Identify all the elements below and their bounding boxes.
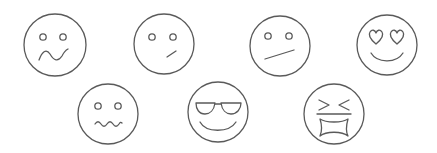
sunglasses-face-icon — [188, 82, 248, 142]
frustrated-face-icon — [304, 84, 364, 144]
unamused-face-icon — [250, 16, 310, 76]
nervous-face-icon — [78, 84, 138, 144]
skeptical-face-icon — [134, 14, 194, 74]
worried-face-icon — [24, 14, 86, 76]
emoji-faces-canvas — [0, 0, 437, 153]
heart-eyes-face-icon — [357, 15, 417, 75]
